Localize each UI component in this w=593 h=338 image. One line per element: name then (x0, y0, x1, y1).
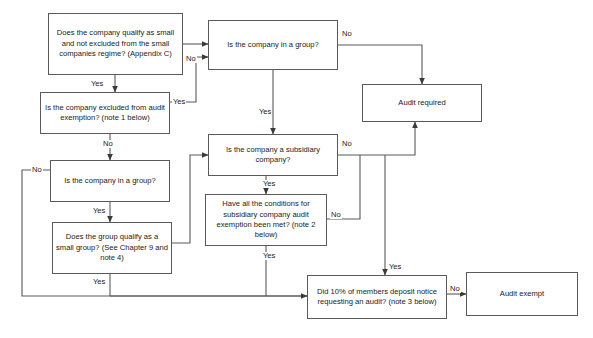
node-group-qualify-small[interactable]: Does the group qualify as a small group?… (52, 222, 172, 274)
node-company-in-group-top[interactable]: Is the company in a group? (208, 20, 338, 70)
edge-label-q1-no: No (185, 55, 197, 63)
edge-label-excluded-yes: Yes (172, 98, 186, 106)
edge-label-q2-yes: Yes (258, 108, 272, 116)
edge-label-deposit-no: No (449, 285, 461, 293)
node-audit-exempt[interactable]: Audit exempt (466, 272, 578, 316)
edge-label-small-group-yes: Yes (92, 278, 106, 286)
edge-label-subsidiary-yes: Yes (262, 180, 276, 188)
edge-label-deposit-yes: Yes (388, 263, 402, 271)
node-small-company-qualify[interactable]: Does the company qualify as small and no… (48, 13, 183, 75)
edge-label-excluded-no: No (102, 140, 114, 148)
edge-label-conditions-yes: Yes (262, 252, 276, 260)
node-subsidiary-company[interactable]: Is the company a subsidiary company? (208, 134, 338, 176)
node-subsidiary-conditions[interactable]: Have all the conditions for subsidiary c… (205, 194, 327, 246)
node-excluded-from-exemption[interactable]: Is the company excluded from audit exemp… (40, 92, 170, 134)
edge-label-q2-no: No (341, 30, 353, 38)
node-audit-required[interactable]: Audit required (362, 84, 482, 122)
edge-label-subsidiary-no: No (341, 140, 353, 148)
node-members-deposit-notice[interactable]: Did 10% of members deposit notice reques… (307, 275, 447, 319)
edge-label-q1-yes: Yes (90, 80, 104, 88)
edge-label-conditions-no: No (330, 211, 342, 219)
flowchart-canvas: Does the company qualify as small and no… (0, 0, 593, 338)
edge-label-group-left-no: No (31, 166, 43, 174)
node-company-in-group-left[interactable]: Is the company in a group? (50, 160, 170, 202)
edge-label-group-left-yes: Yes (92, 207, 106, 215)
